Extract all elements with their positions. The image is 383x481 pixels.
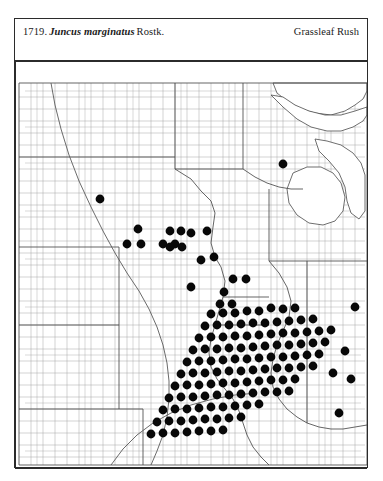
occurrence-dot bbox=[249, 366, 258, 375]
occurrence-dot bbox=[243, 401, 252, 410]
occurrence-dot bbox=[134, 225, 143, 234]
occurrence-dot bbox=[273, 364, 282, 373]
occurrence-dot bbox=[273, 341, 282, 350]
occurrence-dot bbox=[243, 307, 252, 316]
occurrence-dot bbox=[189, 346, 198, 355]
occurrence-dot bbox=[279, 376, 288, 385]
occurrence-dot bbox=[219, 426, 228, 435]
distribution-map-plate: 1719.Juncus marginatusRostk. Grassleaf R… bbox=[14, 18, 368, 468]
occurrence-dot bbox=[285, 317, 294, 326]
occurrence-dot bbox=[216, 300, 225, 309]
occurrence-dot bbox=[291, 375, 300, 384]
occurrence-dot bbox=[189, 369, 198, 378]
occurrence-dot bbox=[207, 427, 216, 436]
occurrence-dot bbox=[177, 370, 186, 379]
plate-number: 1719. bbox=[23, 26, 47, 37]
occurrence-dot bbox=[225, 414, 234, 423]
occurrence-dot bbox=[297, 340, 306, 349]
occurrence-dot bbox=[249, 343, 258, 352]
occurrence-dot bbox=[207, 310, 216, 319]
plate-header: 1719.Juncus marginatusRostk. Grassleaf R… bbox=[15, 19, 367, 61]
occurrence-dot bbox=[231, 402, 240, 411]
occurrence-dot bbox=[225, 321, 234, 330]
occurrence-dot bbox=[153, 418, 162, 427]
occurrence-dot bbox=[329, 369, 338, 378]
occurrence-dot bbox=[347, 375, 356, 384]
occurrence-dot bbox=[213, 321, 222, 330]
occurrence-dot bbox=[195, 404, 204, 413]
occurrence-dot bbox=[231, 379, 240, 388]
occurrence-dot bbox=[219, 333, 228, 342]
occurrence-dot bbox=[321, 338, 330, 347]
occurrence-dot bbox=[237, 344, 246, 353]
occurrence-dot bbox=[237, 367, 246, 376]
occurrence-dot bbox=[195, 381, 204, 390]
occurrence-dot bbox=[297, 316, 306, 325]
state-boundaries bbox=[19, 83, 367, 465]
occurrence-dot bbox=[201, 392, 210, 401]
occurrence-dot bbox=[279, 160, 288, 169]
occurrence-dot bbox=[183, 428, 192, 437]
occurrence-dot bbox=[210, 253, 219, 262]
occurrence-dot bbox=[279, 353, 288, 362]
occurrence-dot bbox=[229, 275, 238, 284]
occurrence-dot bbox=[303, 351, 312, 360]
occurrence-dot bbox=[207, 403, 216, 412]
occurrence-dot bbox=[195, 427, 204, 436]
occurrence-dot bbox=[285, 364, 294, 373]
occurrence-dot bbox=[201, 369, 210, 378]
occurrence-dot bbox=[279, 329, 288, 338]
occurrence-dot bbox=[255, 354, 264, 363]
occurrence-dot bbox=[219, 379, 228, 388]
occurrence-dot bbox=[341, 347, 350, 356]
occurrence-dot bbox=[231, 309, 240, 318]
occurrence-dot bbox=[183, 358, 192, 367]
occurrence-dot bbox=[255, 307, 264, 316]
taxon-authority: Rostk. bbox=[137, 26, 165, 37]
occurrence-dot bbox=[291, 329, 300, 338]
occurrence-dot bbox=[195, 334, 204, 343]
occurrence-dot bbox=[219, 356, 228, 365]
occurrence-dot bbox=[327, 326, 336, 335]
occurrence-dot bbox=[237, 390, 246, 399]
occurrence-dot bbox=[220, 288, 229, 297]
occurrence-dot bbox=[291, 304, 300, 313]
occurrence-dot bbox=[297, 363, 306, 372]
occurrence-dot bbox=[309, 362, 318, 371]
occurrence-dot bbox=[291, 352, 300, 361]
occurrence-dot bbox=[242, 275, 251, 284]
occurrence-dot bbox=[137, 240, 146, 249]
occurrence-dot bbox=[237, 413, 246, 422]
occurrence-dot bbox=[273, 318, 282, 327]
map-canvas bbox=[15, 61, 367, 469]
occurrence-dot bbox=[147, 430, 156, 439]
occurrence-dot bbox=[261, 365, 270, 374]
occurrence-dot bbox=[201, 322, 210, 331]
occurrence-dot bbox=[171, 382, 180, 391]
occurrence-dot bbox=[183, 405, 192, 414]
occurrence-dot bbox=[225, 367, 234, 376]
occurrence-dot bbox=[303, 328, 312, 337]
occurrence-dot bbox=[225, 391, 234, 400]
occurrence-dot bbox=[261, 342, 270, 351]
occurrence-dot bbox=[178, 243, 187, 252]
occurrence-dot bbox=[243, 355, 252, 364]
occurrence-dot bbox=[255, 400, 264, 409]
occurrence-dot bbox=[243, 332, 252, 341]
occurrence-dot bbox=[207, 333, 216, 342]
occurrence-dot bbox=[213, 345, 222, 354]
occurrence-dot bbox=[335, 409, 344, 418]
occurrence-dot bbox=[213, 391, 222, 400]
occurrence-dot bbox=[189, 416, 198, 425]
occurrence-dot bbox=[207, 357, 216, 366]
occurrence-dot bbox=[96, 195, 105, 204]
occurrence-dot bbox=[177, 417, 186, 426]
occurrence-dot bbox=[309, 339, 318, 348]
occurrence-dot bbox=[309, 315, 318, 324]
occurrence-dot bbox=[171, 429, 180, 438]
occurrence-dot bbox=[171, 405, 180, 414]
occurrence-dot bbox=[159, 429, 168, 438]
header-row: 1719.Juncus marginatusRostk. Grassleaf R… bbox=[23, 26, 359, 37]
occurrence-dot bbox=[351, 303, 360, 312]
occurrence-dot bbox=[228, 300, 237, 309]
